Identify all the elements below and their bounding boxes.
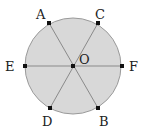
label-d: D — [42, 114, 52, 129]
label-b: B — [99, 114, 109, 129]
point-b — [96, 106, 100, 110]
label-a: A — [35, 7, 46, 22]
label-c: C — [95, 7, 105, 22]
label-o: O — [79, 52, 90, 67]
point-a — [47, 21, 51, 25]
point-o — [71, 64, 75, 68]
label-e: E — [5, 59, 15, 74]
point-f — [120, 64, 124, 68]
label-f: F — [129, 59, 138, 74]
point-e — [23, 64, 27, 68]
point-d — [48, 106, 52, 110]
circle-diagram: A C E F O D B — [0, 0, 147, 132]
